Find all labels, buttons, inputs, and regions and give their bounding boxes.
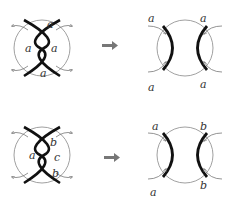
label: a [47, 18, 54, 31]
arrow-icon [12, 173, 28, 178]
label: b [200, 120, 207, 133]
arrow-icon [12, 26, 28, 31]
label: b [200, 179, 207, 192]
label: b [52, 167, 59, 180]
diagram-bottom-right: a b a b [148, 120, 222, 198]
arrow-icon [204, 62, 222, 72]
diagram-top-right: a a a a [148, 12, 222, 94]
label: a [148, 81, 155, 94]
arrow-icon [56, 66, 72, 71]
label: a [200, 78, 207, 91]
label: a [150, 186, 157, 198]
arrow-icon [204, 169, 222, 179]
label: a [40, 67, 47, 80]
label: a [200, 12, 207, 25]
label: a [148, 12, 155, 25]
arrow-icon [56, 26, 72, 31]
arrow-icon [148, 62, 166, 72]
arrow-icon [12, 66, 28, 71]
label: b [50, 136, 57, 149]
diagram-canvas: a a a a a a a a b a c b [0, 0, 225, 198]
transform-arrow-top [102, 41, 118, 50]
diagram-top-left: a a a a [12, 18, 72, 80]
label: a [25, 42, 32, 55]
label: c [54, 151, 60, 164]
arrow-icon [148, 169, 166, 179]
label: a [152, 120, 159, 133]
label: a [51, 42, 58, 55]
transform-arrow-bottom [104, 153, 120, 162]
label: a [29, 149, 36, 162]
arrow-icon [12, 133, 28, 138]
arrow-icon [56, 133, 72, 138]
diagram-bottom-left: b a c b [12, 127, 72, 183]
